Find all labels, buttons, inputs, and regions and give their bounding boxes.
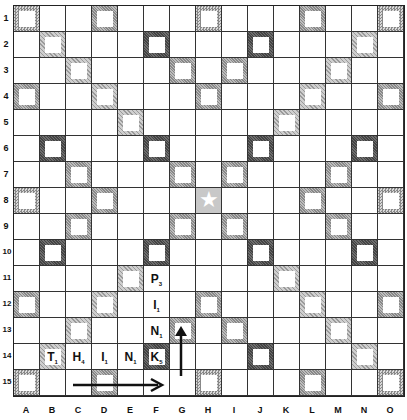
arrow-right-icon bbox=[0, 0, 407, 420]
